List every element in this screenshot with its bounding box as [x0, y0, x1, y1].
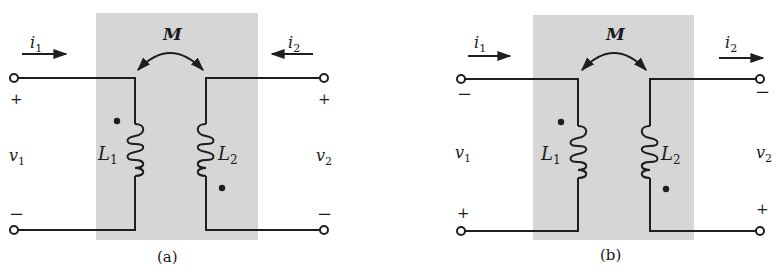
- mutual-label-b: M: [605, 24, 626, 44]
- polarity-dot-l2-a: [219, 185, 225, 191]
- caption-b: (b): [600, 246, 621, 264]
- sign-v1-top-b: −: [457, 83, 472, 104]
- panel-a: M i1 i2 + − + − v1 v2 L1 L2 (a): [9, 13, 332, 266]
- terminal-b-left-bottom: [457, 227, 465, 235]
- polarity-dot-l2-b: [663, 186, 669, 192]
- polarity-dot-l1-a: [114, 118, 120, 124]
- sign-v2-top-b: −: [755, 81, 770, 102]
- panel-b: M i1 i2 − + − + v1 v2 L1 L2 (b): [455, 15, 772, 264]
- terminal-a-left-top: [10, 74, 18, 82]
- sign-v2-top-a: +: [318, 90, 331, 108]
- terminal-b-right-bottom: [756, 227, 764, 235]
- current-i1-b: i1: [474, 33, 486, 55]
- shaded-core-a: [96, 13, 258, 240]
- terminal-a-left-bottom: [10, 226, 18, 234]
- voltage-v1-b: v1: [455, 143, 471, 165]
- caption-a: (a): [157, 248, 178, 266]
- current-i2-b: i2: [725, 33, 737, 55]
- polarity-dot-l1-b: [558, 119, 564, 125]
- sign-v1-bottom-a: −: [9, 203, 24, 224]
- current-i1-a: i1: [30, 33, 42, 55]
- sign-v1-top-a: +: [10, 90, 23, 108]
- sign-v2-bottom-b: +: [756, 200, 769, 218]
- voltage-v1-a: v1: [9, 146, 25, 168]
- mutual-label-a: M: [162, 24, 183, 44]
- shaded-core-b: [533, 15, 694, 240]
- terminal-b-left-top: [457, 75, 465, 83]
- sign-v2-bottom-a: −: [317, 203, 332, 224]
- current-i2-a: i2: [288, 33, 300, 55]
- terminal-a-right-bottom: [320, 226, 328, 234]
- sign-v1-bottom-b: +: [457, 204, 470, 222]
- voltage-v2-a: v2: [316, 146, 332, 168]
- coupled-inductors-diagram: M i1 i2 + − + − v1 v2 L1 L2 (a): [0, 0, 778, 276]
- voltage-v2-b: v2: [756, 143, 772, 165]
- terminal-a-right-top: [320, 74, 328, 82]
